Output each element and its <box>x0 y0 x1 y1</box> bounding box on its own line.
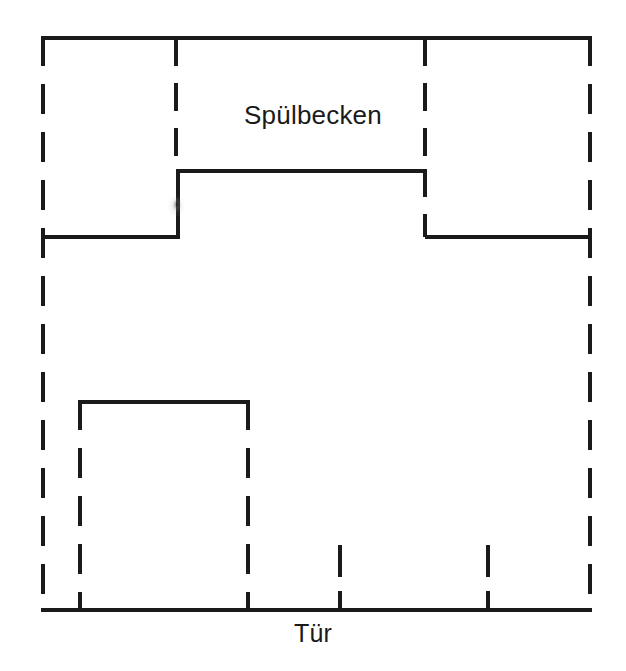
floor-plan-page: Spülbecken Tür <box>0 0 626 671</box>
label-tuer: Tür <box>0 619 626 648</box>
label-spuelbecken: Spülbecken <box>0 100 626 131</box>
